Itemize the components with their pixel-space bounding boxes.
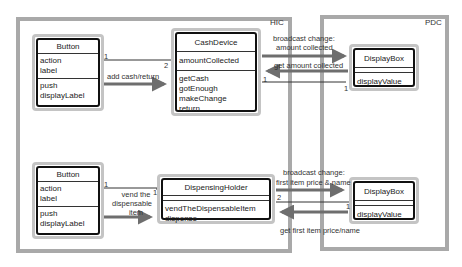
multiplicity: 1: [346, 202, 350, 211]
multiplicity: 2: [277, 193, 281, 202]
operation-push: push: [40, 209, 96, 219]
multiplicity: 1: [104, 180, 108, 189]
message-broadcast-item-line2: first item price & name: [276, 178, 351, 187]
attribute-action: action: [40, 184, 96, 194]
operation-gotenough: gotEnough: [179, 84, 253, 94]
operation-return: return: [179, 104, 253, 114]
operation-makechange: makeChange: [179, 94, 253, 104]
displaybox-class-top[interactable]: DisplayBox displayValue: [349, 44, 419, 91]
multiplicity: 2: [164, 61, 168, 70]
attribute-label: label: [40, 194, 96, 204]
cashdevice-class[interactable]: CashDevice amountCollected getCash gotEn…: [171, 28, 261, 116]
operation-displayvalue: displayValue: [357, 77, 411, 87]
multiplicity: 1: [104, 52, 108, 61]
message-vend-line3: item: [116, 208, 156, 217]
class-name: DisplayBox: [355, 50, 413, 68]
class-name: CashDevice: [177, 34, 255, 52]
class-name: Button: [38, 40, 98, 54]
class-name: DisplayBox: [355, 183, 413, 201]
message-broadcast-item-line1: broadcast change:: [283, 168, 345, 177]
operation-displaylabel: displayLabel: [40, 91, 96, 101]
operation-displayvalue: displayValue: [357, 210, 411, 220]
attribute-label: label: [40, 66, 96, 76]
attribute-amountcollected: amountCollected: [179, 56, 253, 66]
multiplicity: 1: [153, 188, 157, 197]
operation-vendthedispensableitem: vendTheDispensableItem: [165, 204, 267, 214]
message-add-cash-return: add cash/return: [107, 72, 159, 81]
message-broadcast-amount-line2: amount collected: [276, 43, 333, 52]
displaybox-class-bottom[interactable]: DisplayBox displayValue: [349, 177, 419, 224]
message-broadcast-amount-line1: broadcast change:: [273, 34, 335, 43]
multiplicity: 1: [344, 84, 348, 93]
operation-dispense: dispense: [165, 214, 267, 224]
button-class-top[interactable]: Button action label push displayLabel: [32, 34, 104, 111]
message-get-amount-collected: get amount collected: [274, 61, 343, 70]
message-get-first-item: get first item price/name: [280, 226, 360, 235]
attribute-action: action: [40, 56, 96, 66]
button-class-bottom[interactable]: Button action label push displayLabel: [32, 162, 104, 239]
dispensingholder-class[interactable]: DispensingHolder vendTheDispensableItem …: [157, 174, 275, 224]
operation-push: push: [40, 81, 96, 91]
message-vend-line1: vend the: [116, 190, 156, 199]
message-vend-line2: dispensable: [108, 199, 156, 208]
operation-getcash: getCash: [179, 74, 253, 84]
class-name: Button: [38, 168, 98, 182]
operation-displaylabel: displayLabel: [40, 219, 96, 229]
multiplicity: 1: [263, 75, 267, 84]
class-name: DispensingHolder: [163, 180, 269, 196]
